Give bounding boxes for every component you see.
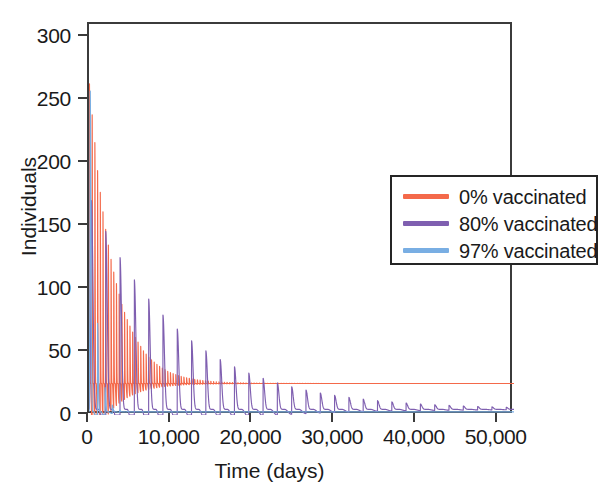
y-tick-label: 100 bbox=[37, 276, 71, 297]
x-tick-label: 0 bbox=[81, 426, 92, 448]
x-tick-label: 30,000 bbox=[301, 426, 363, 448]
legend-swatch-series-1 bbox=[403, 221, 449, 226]
y-tick-label: 250 bbox=[37, 87, 71, 108]
y-tick-mark bbox=[78, 160, 87, 162]
y-axis: 050100150200250300 Individuals bbox=[0, 0, 87, 440]
x-tick-mark bbox=[249, 413, 251, 422]
legend-label-series-2: 97% vaccinated bbox=[459, 241, 597, 261]
x-axis-title: Time (days) bbox=[0, 460, 539, 482]
y-tick-mark bbox=[78, 34, 87, 36]
legend-label-series-1: 80% vaccinated bbox=[459, 214, 597, 234]
plot-area: 0% vaccinated 80% vaccinated 97% vaccina… bbox=[87, 22, 512, 413]
legend-swatch-series-2 bbox=[403, 248, 449, 253]
y-tick-mark bbox=[78, 349, 87, 351]
y-tick-mark bbox=[78, 223, 87, 225]
x-tick-label: 40,000 bbox=[383, 426, 445, 448]
y-tick-label: 300 bbox=[37, 24, 71, 45]
x-tick-mark bbox=[168, 413, 170, 422]
legend-label-series-0: 0% vaccinated bbox=[459, 187, 586, 207]
y-tick-label: 50 bbox=[48, 339, 71, 360]
x-tick-mark bbox=[495, 413, 497, 422]
x-tick-label: 50,000 bbox=[465, 426, 527, 448]
y-tick-label: 0 bbox=[60, 403, 71, 424]
x-tick-mark bbox=[86, 413, 88, 422]
y-axis-title: Individuals bbox=[18, 87, 39, 327]
x-tick-label: 10,000 bbox=[138, 426, 200, 448]
legend-item-1[interactable]: 80% vaccinated bbox=[392, 210, 596, 237]
y-tick-label: 200 bbox=[37, 150, 71, 171]
legend: 0% vaccinated 80% vaccinated 97% vaccina… bbox=[390, 175, 598, 265]
legend-item-0[interactable]: 0% vaccinated bbox=[392, 183, 596, 210]
legend-item-2[interactable]: 97% vaccinated bbox=[392, 237, 596, 264]
x-tick-mark bbox=[413, 413, 415, 422]
x-tick-label: 20,000 bbox=[220, 426, 282, 448]
x-tick-mark bbox=[331, 413, 333, 422]
legend-swatch-series-0 bbox=[403, 194, 449, 199]
y-tick-mark bbox=[78, 97, 87, 99]
y-tick-label: 150 bbox=[37, 213, 71, 234]
y-tick-mark bbox=[78, 286, 87, 288]
